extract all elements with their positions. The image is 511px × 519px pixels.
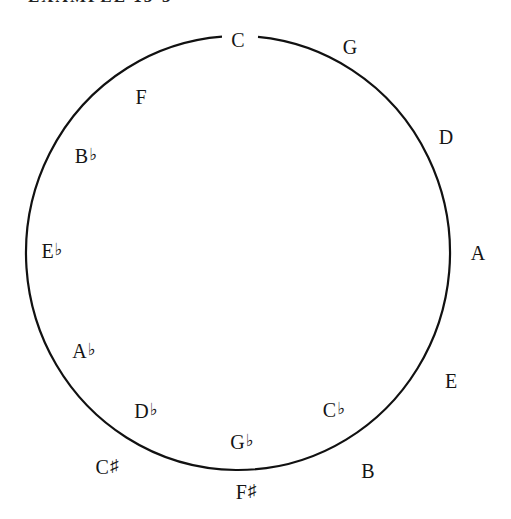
note-letter: G <box>230 431 244 453</box>
note-label-e: E <box>445 371 457 391</box>
note-label-f: F <box>135 87 146 107</box>
note-label-c: C <box>231 30 244 50</box>
flat-sign-icon: ♭ <box>55 240 63 259</box>
note-label-db: D♭ <box>134 401 157 423</box>
note-label-ab: A♭ <box>72 341 95 363</box>
flat-sign-icon: ♭ <box>337 399 345 418</box>
sharp-sign-icon: ♯ <box>110 456 119 475</box>
flat-sign-icon: ♭ <box>88 340 96 359</box>
note-label-cs: C♯ <box>96 457 119 479</box>
sharp-sign-icon: ♯ <box>248 481 257 500</box>
note-label-fs: F♯ <box>236 482 257 504</box>
note-letter: C <box>231 29 244 51</box>
note-letter: B <box>361 460 374 482</box>
note-label-b: B <box>361 461 374 481</box>
note-label-eb: E♭ <box>41 241 62 263</box>
circle-of-fifths-ring <box>0 0 511 519</box>
note-letter: D <box>134 400 148 422</box>
flat-sign-icon: ♭ <box>150 400 158 419</box>
note-letter: G <box>343 36 357 58</box>
note-letter: C <box>323 399 336 421</box>
note-letter: C <box>96 456 109 478</box>
note-label-g: G <box>343 37 357 57</box>
note-letter: B <box>75 145 88 167</box>
note-letter: E <box>41 240 53 262</box>
note-letter: D <box>439 126 453 148</box>
note-letter: A <box>471 242 485 264</box>
note-label-gb: G♭ <box>230 432 253 454</box>
note-label-d: D <box>439 127 453 147</box>
flat-sign-icon: ♭ <box>89 145 97 164</box>
note-label-a: A <box>471 243 485 263</box>
note-letter: F <box>236 481 247 503</box>
note-letter: E <box>445 370 457 392</box>
note-letter: A <box>72 340 86 362</box>
note-letter: F <box>135 86 146 108</box>
note-label-cb: C♭ <box>323 400 345 422</box>
flat-sign-icon: ♭ <box>246 431 254 450</box>
note-label-bb: B♭ <box>75 146 97 168</box>
